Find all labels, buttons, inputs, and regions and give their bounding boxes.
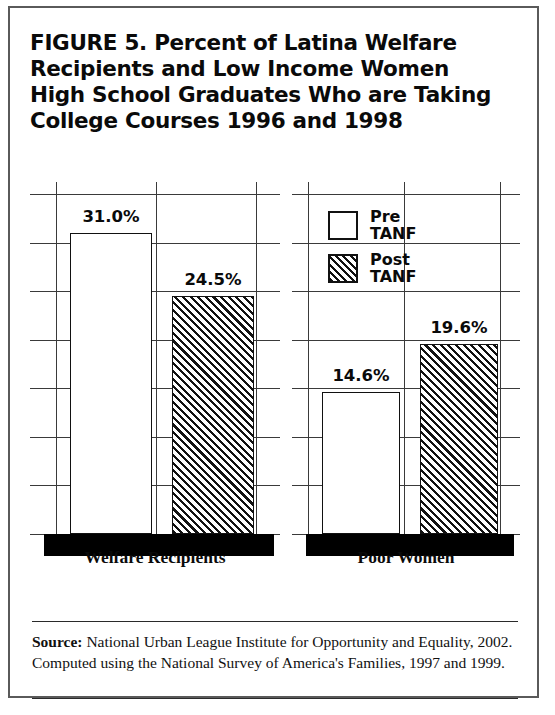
bar-label-welfare-post-tanf: 24.5% [172, 270, 254, 289]
bar-label-welfare-pre-tanf: 31.0% [70, 207, 152, 226]
bar-welfare-pre-tanf[interactable] [70, 233, 152, 534]
source-rule-top [32, 621, 518, 622]
legend-label-post-tanf: Post TANF [370, 251, 416, 285]
legend-swatch-post-tanf [328, 254, 358, 283]
title-line-3: High School Graduates Who are Taking [30, 82, 522, 108]
legend-label-pre-tanf-line2: TANF [370, 225, 416, 242]
gridline-20 [292, 340, 520, 341]
source-rule-bottom [32, 698, 518, 699]
source-text: National Urban League Institute for Oppo… [32, 633, 512, 671]
vertical-axis-line-mid [156, 182, 157, 546]
vertical-axis-line-left [308, 182, 309, 546]
title-line-1: FIGURE 5. Percent of Latina Welfare [30, 30, 522, 56]
bar-label-poor-women-post-tanf: 19.6% [412, 318, 506, 337]
title-line-2: Recipients and Low Income Women [30, 56, 522, 82]
vertical-axis-line-right [256, 182, 257, 546]
legend-item-post-tanf[interactable]: Post TANF [328, 251, 416, 285]
bar-label-poor-women-pre-tanf: 14.6% [314, 366, 408, 385]
gridline-25 [30, 291, 280, 292]
gridline-35 [30, 194, 280, 195]
plot-area-left: 31.0% 24.5% Welfare Recipients [38, 194, 272, 534]
legend-label-post-tanf-line1: Post [370, 251, 416, 268]
chart-panel-welfare-recipients: 31.0% 24.5% Welfare Recipients [38, 186, 272, 566]
legend-label-pre-tanf-line1: Pre [370, 208, 416, 225]
legend-item-pre-tanf[interactable]: Pre TANF [328, 208, 416, 242]
chart-legend: Pre TANF Post TANF [328, 208, 416, 294]
bar-chart: 31.0% 24.5% Welfare Recipients [24, 186, 524, 566]
bar-poor-women-pre-tanf[interactable] [322, 392, 400, 534]
legend-label-pre-tanf: Pre TANF [370, 208, 416, 242]
bar-poor-women-post-tanf[interactable] [420, 344, 498, 534]
gridline-35 [292, 194, 520, 195]
source-label: Source: [32, 633, 83, 650]
chart-panel-poor-women: Pre TANF Post TANF 14.6% [300, 186, 512, 566]
plot-area-right: Pre TANF Post TANF 14.6% [300, 194, 512, 534]
vertical-axis-line-left [56, 182, 57, 546]
category-label-poor-women: Poor Women [300, 547, 512, 568]
title-line-4: College Courses 1996 and 1998 [30, 108, 522, 134]
gridline-30 [30, 243, 280, 244]
legend-label-post-tanf-line2: TANF [370, 268, 416, 285]
page-title: FIGURE 5. Percent of Latina Welfare Reci… [30, 30, 522, 134]
bar-welfare-post-tanf[interactable] [172, 296, 254, 534]
vertical-axis-line-right [500, 182, 501, 546]
category-label-welfare-recipients: Welfare Recipients [38, 547, 272, 568]
source-note: Source: National Urban League Institute … [32, 632, 524, 673]
legend-swatch-pre-tanf [328, 211, 358, 240]
figure-page: FIGURE 5. Percent of Latina Welfare Reci… [8, 6, 539, 698]
